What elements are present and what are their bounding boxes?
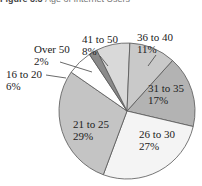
label-31-35-range: 31 to 35 [148, 82, 184, 94]
label-36-40: 36 to 40 11% [137, 31, 173, 55]
label-41-50-pct: 8% [82, 45, 118, 57]
label-21-25-range: 21 to 25 [73, 118, 109, 130]
label-26-30: 26 to 30 27% [139, 128, 175, 152]
label-31-35-pct: 17% [148, 94, 184, 106]
label-21-25-pct: 29% [73, 130, 109, 142]
label-41-50-range: 41 to 50 [82, 33, 118, 45]
label-over-50: Over 50 2% [34, 43, 70, 67]
label-36-40-pct: 11% [137, 43, 173, 55]
label-over-50-range: Over 50 [34, 43, 70, 55]
label-31-35: 31 to 35 17% [148, 82, 184, 106]
label-26-30-range: 26 to 30 [139, 128, 175, 140]
label-21-25: 21 to 25 29% [73, 118, 109, 142]
label-26-30-pct: 27% [139, 140, 175, 152]
label-16-20-pct: 6% [6, 80, 42, 92]
label-16-20: 16 to 20 6% [6, 68, 42, 92]
label-41-50: 41 to 50 8% [82, 33, 118, 57]
label-36-40-range: 36 to 40 [137, 31, 173, 43]
label-over-50-pct: 2% [34, 55, 70, 67]
leader-line [46, 75, 66, 78]
label-16-20-range: 16 to 20 [6, 68, 42, 80]
